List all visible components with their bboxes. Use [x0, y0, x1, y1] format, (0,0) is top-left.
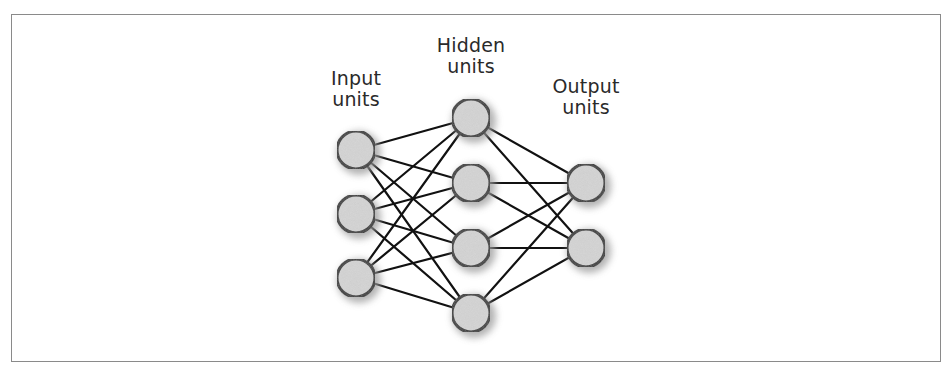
- input-node-2: [337, 195, 375, 233]
- output-node-2: [567, 229, 605, 267]
- hidden-node-3: [452, 229, 490, 267]
- output-node-1: [567, 164, 605, 202]
- input-node-3: [337, 259, 375, 297]
- output-label-line2: units: [536, 97, 636, 118]
- input-label-line1: Input: [306, 68, 406, 89]
- output-label-line1: Output: [536, 76, 636, 97]
- hidden-node-2: [452, 164, 490, 202]
- input-label-line2: units: [306, 89, 406, 110]
- connection-edges: [356, 118, 586, 313]
- hidden-units-label: Hidden units: [421, 35, 521, 77]
- hidden-label-line1: Hidden: [421, 35, 521, 56]
- output-units-label: Output units: [536, 76, 636, 118]
- hidden-node-1: [452, 99, 490, 137]
- input-node-1: [337, 131, 375, 169]
- hidden-label-line2: units: [421, 56, 521, 77]
- input-units-label: Input units: [306, 68, 406, 110]
- hidden-node-4: [452, 294, 490, 332]
